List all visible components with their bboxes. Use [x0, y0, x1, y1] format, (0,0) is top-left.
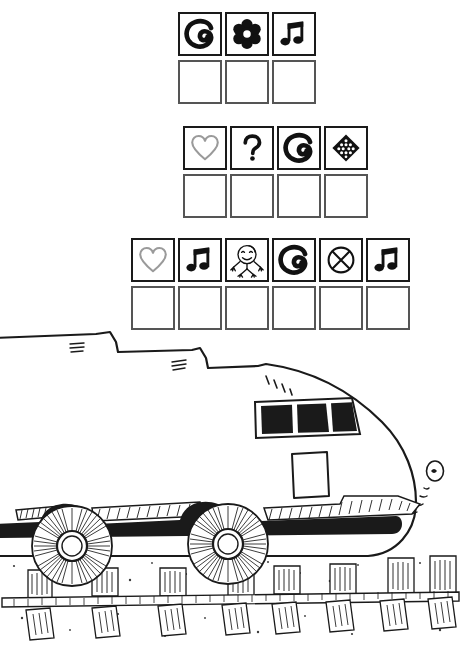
symbol-cell-music-note[interactable] [366, 238, 410, 282]
answer-box[interactable] [183, 174, 227, 218]
symbol-cell-music-note[interactable] [272, 12, 316, 56]
heart-outline-icon [185, 128, 225, 168]
answer-row [178, 60, 316, 104]
symbol-cell-music-note[interactable] [178, 238, 222, 282]
symbol-grid-3 [178, 12, 316, 104]
flower-star-icon [227, 14, 267, 54]
cab-door-panel [292, 452, 329, 498]
music-note-icon [180, 240, 220, 280]
prompt-row [178, 12, 316, 56]
question-mark-icon [232, 128, 272, 168]
symbol-cell-dotted-diamond[interactable] [324, 126, 368, 170]
spiral-swirl-icon [180, 14, 220, 54]
symbol-cell-spiral[interactable] [277, 126, 321, 170]
symbol-grid-4 [183, 126, 368, 218]
heart-outline-icon [133, 240, 173, 280]
answer-box[interactable] [230, 174, 274, 218]
symbol-cell-heart[interactable] [131, 238, 175, 282]
symbol-grid-6 [131, 238, 410, 330]
answer-box[interactable] [225, 60, 269, 104]
symbol-cell-stick-figure[interactable] [225, 238, 269, 282]
stick-figure-icon [227, 240, 267, 280]
circle-x-icon [321, 240, 361, 280]
answer-box[interactable] [272, 60, 316, 104]
symbol-cell-spiral[interactable] [272, 238, 316, 282]
answer-row [183, 174, 368, 218]
spiral-swirl-icon [279, 128, 319, 168]
dotted-diamond-icon [326, 128, 366, 168]
music-note-icon [368, 240, 408, 280]
high-speed-train-drawing [0, 318, 461, 651]
music-note-icon [274, 14, 314, 54]
headlight [427, 461, 444, 481]
symbol-cell-circle-x[interactable] [319, 238, 363, 282]
train-wheel [32, 506, 112, 586]
answer-box[interactable] [324, 174, 368, 218]
train-wheel [188, 504, 268, 584]
prompt-row [183, 126, 368, 170]
windshield-panes [255, 398, 360, 438]
symbol-cell-spiral[interactable] [178, 12, 222, 56]
symbol-cell-question-mark[interactable] [230, 126, 274, 170]
answer-box[interactable] [178, 60, 222, 104]
worksheet-page [0, 0, 461, 651]
prompt-row [131, 238, 410, 282]
answer-box[interactable] [277, 174, 321, 218]
symbol-cell-flower[interactable] [225, 12, 269, 56]
symbol-cell-heart[interactable] [183, 126, 227, 170]
spiral-swirl-icon [274, 240, 314, 280]
